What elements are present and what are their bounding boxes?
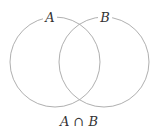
set-a-label: A xyxy=(44,10,54,25)
intersection-caption: A ∩ B xyxy=(59,114,98,129)
set-a-circle xyxy=(10,17,100,107)
set-b-label: B xyxy=(99,10,110,25)
set-b-circle xyxy=(59,17,149,107)
venn-diagram: A B A ∩ B xyxy=(0,0,159,130)
